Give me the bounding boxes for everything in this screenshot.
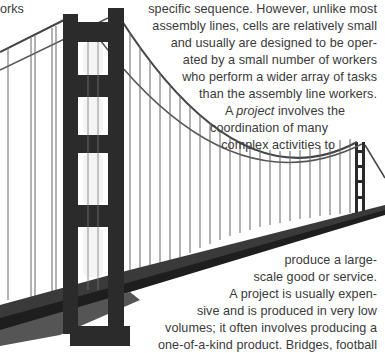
text-line: A project is usually expen- xyxy=(229,286,377,302)
text-line: scale good or service. xyxy=(253,269,377,285)
project-term: project xyxy=(236,104,274,118)
left-text-fragment: orks xyxy=(0,1,24,17)
text-line: specific sequence. However, unlike most xyxy=(148,1,377,17)
text-line: one-of-a-kind product. Bridges, football xyxy=(158,337,377,353)
project-definition-line: A project involves the xyxy=(225,103,345,119)
text-line: who perform a wider array of tasks xyxy=(182,69,377,85)
text-line: ated by a small number of workers xyxy=(183,52,377,68)
text-line: than the assembly line workers. xyxy=(199,86,377,102)
text-segment: involves the xyxy=(274,104,345,118)
text-line: volumes; it often involves producing a xyxy=(165,320,377,336)
text-segment: A xyxy=(225,104,236,118)
text-line: coordination of many xyxy=(210,120,328,136)
text-line: sive and is produced in very low xyxy=(197,303,377,319)
text-line: produce a large- xyxy=(284,252,377,268)
text-line: and usually are designed to be oper- xyxy=(171,35,377,51)
text-line: complex activities to xyxy=(221,137,335,153)
text-line: assembly lines, cells are relatively sma… xyxy=(152,18,377,34)
